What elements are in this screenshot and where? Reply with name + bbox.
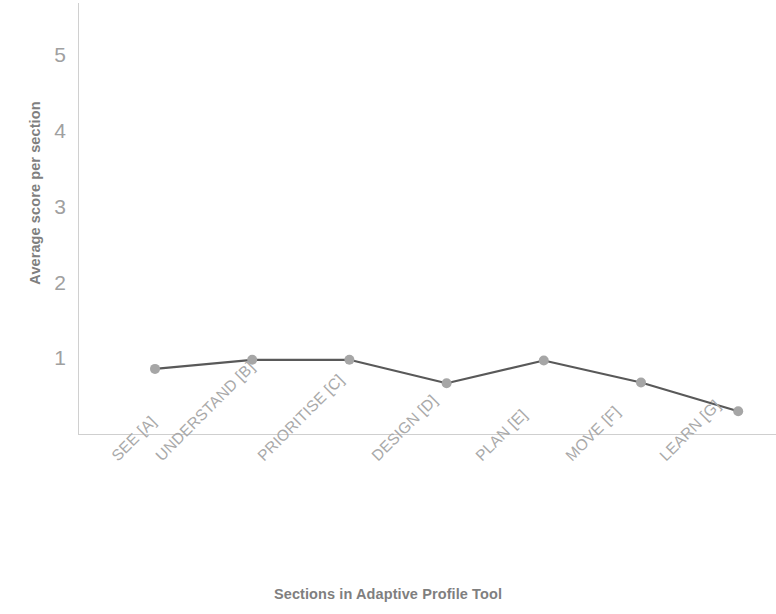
line-chart: Average score per section 5 4 3 2 1 SEE …: [0, 0, 776, 614]
plot-area: [0, 0, 776, 614]
x-tick-label-plan: PLAN [E]: [472, 406, 531, 465]
data-point: [733, 406, 743, 416]
data-point: [344, 355, 354, 365]
x-tick-label-design: DESIGN [D]: [368, 392, 441, 465]
data-point: [539, 356, 549, 366]
x-axis-title: Sections in Adaptive Profile Tool: [0, 586, 776, 602]
data-point: [636, 378, 646, 388]
y-tick-label: 5: [0, 44, 66, 65]
x-tick-label-learn: LEARN [G]: [656, 397, 724, 465]
data-point: [150, 364, 160, 374]
data-point: [442, 378, 452, 388]
x-tick-label-understand: UNDERSTAND [B]: [152, 358, 258, 464]
y-axis-line: [78, 3, 79, 434]
x-tick-label-prioritise: PRIORITISE [C]: [254, 371, 348, 465]
y-tick-label: 3: [0, 196, 66, 217]
y-tick-label: 2: [0, 272, 66, 293]
y-tick-label: 4: [0, 120, 66, 141]
y-tick-label: 1: [0, 347, 66, 368]
x-tick-label-see: SEE [A]: [108, 413, 160, 465]
